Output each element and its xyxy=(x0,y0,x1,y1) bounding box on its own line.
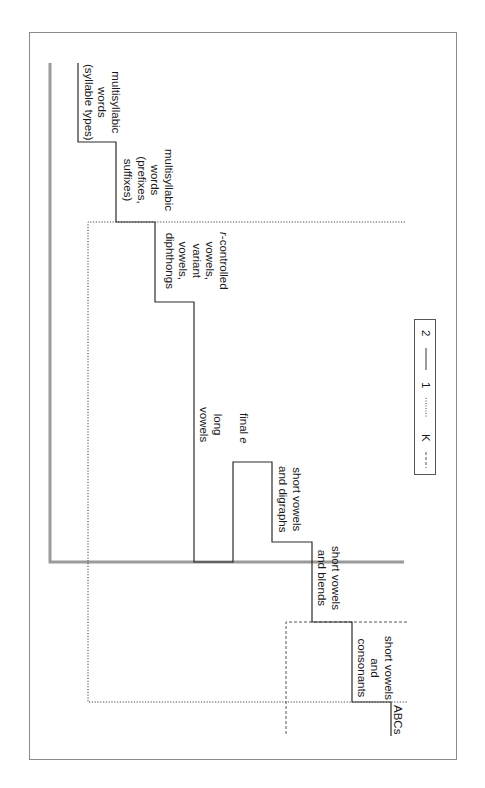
step-label-final-e: final e xyxy=(237,413,251,444)
step-label-short-vowels-digraphs: short vowels and digraphs xyxy=(276,466,303,533)
legend-item-2: 2 xyxy=(415,330,437,370)
legend-item-1: 1 xyxy=(415,378,437,418)
step-label-short-vowels-blends: short vowels and blends xyxy=(315,546,342,610)
staircase-diagram xyxy=(0,0,485,788)
step-label-abcs: ABCs xyxy=(391,705,405,734)
step-label-r-controlled: r-controlled vowels, variant vowels, dip… xyxy=(163,232,231,290)
step-label-multisyllabic-syllable-types: multisyllabic words (syllable types) xyxy=(82,64,123,141)
step-label-short-vowels-consonants: short vowels and consonants xyxy=(355,636,396,700)
legend: K 1 2 xyxy=(414,319,436,475)
legend-item-k: K xyxy=(415,428,437,468)
step-label-long-vowels: long vowels xyxy=(197,407,224,442)
step-label-multisyllabic-prefixes: multisyllabic words (prefixes, suffixes) xyxy=(121,149,175,211)
